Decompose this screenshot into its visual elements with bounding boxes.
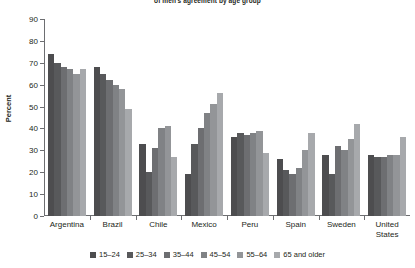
- bar-set: [185, 19, 223, 216]
- bar-group: [44, 19, 90, 216]
- plot-area: 0102030405060708090: [44, 19, 410, 216]
- bar-group: [319, 19, 365, 216]
- x-axis-label: United States: [364, 220, 410, 239]
- bar-set: [48, 19, 86, 216]
- legend-item[interactable]: 15–24: [90, 250, 120, 259]
- bar: [171, 157, 177, 216]
- y-tick-label: 50: [16, 102, 38, 111]
- x-axis-label: Chile: [136, 220, 182, 239]
- legend-swatch-icon: [127, 252, 133, 258]
- legend-label: 35–44: [173, 250, 194, 259]
- bar-group: [227, 19, 273, 216]
- bar-group: [364, 19, 410, 216]
- y-tick-label: 70: [16, 58, 38, 67]
- legend-item[interactable]: 35–44: [164, 250, 194, 259]
- x-axis-label: Argentina: [44, 220, 90, 239]
- bar-set: [231, 19, 269, 216]
- y-tick-label: 40: [16, 124, 38, 133]
- x-axis-labels: ArgentinaBrazilChileMexicoPeruSpainSwede…: [44, 220, 410, 239]
- y-tick-label: 10: [16, 190, 38, 199]
- y-tick-label: 0: [16, 212, 38, 221]
- legend-label: 15–24: [99, 250, 120, 259]
- legend-item[interactable]: 25–34: [127, 250, 157, 259]
- legend-item[interactable]: 55–64: [237, 250, 267, 259]
- bar: [308, 133, 314, 216]
- chart-legend: 15–2425–3435–4445–5455–6465 and older: [0, 250, 415, 259]
- y-tick-label: 90: [16, 15, 38, 24]
- x-axis-label: Mexico: [181, 220, 227, 239]
- chart-title: of men's agreement by age group: [0, 0, 415, 5]
- legend-label: 55–64: [246, 250, 267, 259]
- bar-set: [139, 19, 177, 216]
- y-tick-label: 30: [16, 146, 38, 155]
- bar-set: [322, 19, 360, 216]
- bar-group: [136, 19, 182, 216]
- legend-swatch-icon: [274, 252, 280, 258]
- legend-label: 25–34: [136, 250, 157, 259]
- bar-group: [273, 19, 319, 216]
- bar: [217, 93, 223, 216]
- bar: [354, 124, 360, 216]
- y-tick-label: 80: [16, 36, 38, 45]
- bar: [263, 153, 269, 216]
- legend-item[interactable]: 65 and older: [274, 250, 325, 259]
- bar-chart: of men's agreement by age group Percent …: [0, 0, 415, 268]
- bar-set: [368, 19, 406, 216]
- bar-set: [277, 19, 315, 216]
- bar-set: [94, 19, 132, 216]
- y-tick: [40, 216, 44, 217]
- x-axis-label: Peru: [227, 220, 273, 239]
- y-tick-label: 20: [16, 168, 38, 177]
- legend-label: 65 and older: [283, 250, 325, 259]
- legend-item[interactable]: 45–54: [201, 250, 231, 259]
- legend-swatch-icon: [237, 252, 243, 258]
- x-axis-label: Sweden: [319, 220, 365, 239]
- bar-group: [181, 19, 227, 216]
- y-tick-label: 60: [16, 80, 38, 89]
- bar-group: [90, 19, 136, 216]
- legend-label: 45–54: [210, 250, 231, 259]
- x-axis-label: Spain: [273, 220, 319, 239]
- legend-swatch-icon: [201, 252, 207, 258]
- y-axis-title: Percent: [4, 79, 13, 139]
- legend-swatch-icon: [164, 252, 170, 258]
- bar-groups: [44, 19, 410, 216]
- bar: [125, 109, 131, 216]
- bar: [80, 69, 86, 216]
- legend-swatch-icon: [90, 252, 96, 258]
- bar: [400, 137, 406, 216]
- x-axis-label: Brazil: [90, 220, 136, 239]
